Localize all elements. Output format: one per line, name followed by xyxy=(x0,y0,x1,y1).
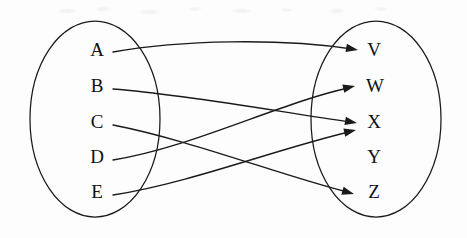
domain-element-c: C xyxy=(91,111,104,132)
arrow-head-e-to-x xyxy=(343,126,357,137)
codomain-element-v: V xyxy=(367,39,381,60)
arrow-head-d-to-w xyxy=(342,82,356,93)
arrow-head-b-to-x xyxy=(344,117,357,127)
mapping-arrow-d-to-w xyxy=(113,82,356,160)
arrow-head-c-to-z xyxy=(341,187,355,198)
codomain-element-z: Z xyxy=(368,181,380,202)
arrow-line-e-to-x xyxy=(113,132,349,195)
domain-element-a: A xyxy=(90,39,104,60)
arrow-head-a-to-v xyxy=(345,44,358,54)
mapping-arrow-c-to-z xyxy=(113,125,355,198)
mapping-diagram-root: A B C D E V W X Y Z xyxy=(0,0,467,238)
mapping-arrow-a-to-v xyxy=(113,42,359,54)
mapping-diagram-svg: A B C D E V W X Y Z xyxy=(0,0,467,238)
domain-element-e: E xyxy=(91,181,103,202)
domain-set-group: A B C D E xyxy=(30,21,160,217)
codomain-element-x: X xyxy=(367,111,381,132)
codomain-element-y: Y xyxy=(367,146,381,167)
arrow-line-b-to-x xyxy=(113,89,350,122)
arrow-line-a-to-v xyxy=(113,42,352,52)
codomain-element-w: W xyxy=(366,75,384,96)
domain-element-d: D xyxy=(90,146,104,167)
domain-element-b: B xyxy=(91,75,104,96)
